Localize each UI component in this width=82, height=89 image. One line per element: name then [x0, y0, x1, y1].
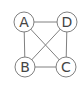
node-c: C: [56, 57, 76, 77]
node-label: D: [62, 14, 73, 30]
node-d: D: [57, 12, 77, 32]
node-label: B: [20, 59, 30, 75]
node-a: A: [14, 12, 34, 32]
node-label: C: [61, 59, 71, 75]
node-label: A: [19, 14, 29, 30]
graph-diagram: ADBC: [0, 0, 82, 89]
node-b: B: [15, 57, 35, 77]
